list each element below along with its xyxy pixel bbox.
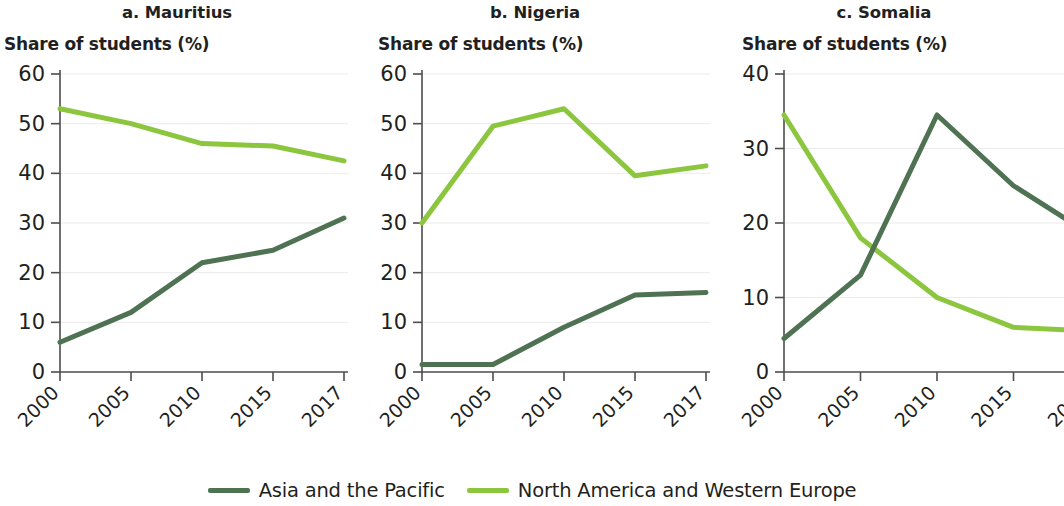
y-axis-tick-label: 50 <box>380 112 407 136</box>
x-axis-tick-label: 2000 <box>375 381 425 431</box>
x-axis-tick-label: 2017 <box>659 381 709 431</box>
y-axis-tick-label: 0 <box>394 360 407 384</box>
y-axis-label-nigeria: Share of students (%) <box>360 26 720 62</box>
y-axis-tick-label: 60 <box>380 62 407 86</box>
legend-label-north-america-western-europe: North America and Western Europe <box>518 479 857 502</box>
x-axis-tick-label: 2017 <box>297 381 347 431</box>
y-axis-tick-label: 10 <box>380 310 407 334</box>
x-axis-tick-label: 2000 <box>737 381 787 431</box>
y-axis-tick-label: 40 <box>742 62 769 86</box>
series-line-north-america-western-europe <box>422 109 706 223</box>
x-axis-tick-label: 2010 <box>517 381 567 431</box>
y-axis-tick-label: 10 <box>742 286 769 310</box>
plot-svg-mauritius: 010203040506020002005201020152017 <box>0 62 360 462</box>
plot-area-mauritius: 010203040506020002005201020152017 <box>0 62 360 462</box>
x-axis-tick-label: 2010 <box>890 381 940 431</box>
y-axis-tick-label: 0 <box>756 360 769 384</box>
y-axis-tick-label: 50 <box>18 112 45 136</box>
series-line-asia-pacific <box>422 293 706 365</box>
legend-item-north-america-western-europe: North America and Western Europe <box>467 479 857 502</box>
y-axis-tick-label: 10 <box>18 310 45 334</box>
chart-panels-row: a. Mauritius Share of students (%) 01020… <box>0 0 1064 470</box>
chart-panel-nigeria: b. Nigeria Share of students (%) 0102030… <box>360 0 720 470</box>
x-axis-tick-label: 2015 <box>967 381 1017 431</box>
x-axis-tick-label: 2005 <box>84 381 134 431</box>
legend-item-asia-pacific: Asia and the Pacific <box>208 479 445 502</box>
y-axis-label-somalia: Share of students (%) <box>720 26 1064 62</box>
y-axis-label-mauritius: Share of students (%) <box>0 26 360 62</box>
x-axis-tick-label: 2005 <box>446 381 496 431</box>
x-axis-tick-label: 2005 <box>814 381 864 431</box>
x-axis-tick-label: 2000 <box>13 381 63 431</box>
x-axis-tick-label: 2017 <box>1043 381 1064 431</box>
y-axis-tick-label: 30 <box>380 211 407 235</box>
chart-legend: Asia and the Pacific North America and W… <box>0 474 1064 506</box>
legend-label-asia-pacific: Asia and the Pacific <box>259 479 445 502</box>
y-axis-tick-label: 20 <box>742 211 769 235</box>
y-axis-tick-label: 40 <box>18 161 45 185</box>
y-axis-tick-label: 30 <box>742 137 769 161</box>
y-axis-tick-label: 40 <box>380 161 407 185</box>
chart-panel-somalia: c. Somalia Share of students (%) 0102030… <box>720 0 1064 470</box>
legend-swatch-north-america-western-europe <box>467 488 509 493</box>
panel-title-nigeria: b. Nigeria <box>360 0 720 26</box>
plot-svg-somalia: 01020304020002005201020152017 <box>720 62 1064 462</box>
plot-area-somalia: 01020304020002005201020152017 <box>720 62 1064 462</box>
panel-title-somalia: c. Somalia <box>720 0 1064 26</box>
legend-swatch-asia-pacific <box>208 488 250 493</box>
y-axis-tick-label: 20 <box>18 261 45 285</box>
chart-panel-mauritius: a. Mauritius Share of students (%) 01020… <box>0 0 360 470</box>
series-line-asia-pacific <box>60 218 344 342</box>
y-axis-tick-label: 60 <box>18 62 45 86</box>
panel-title-mauritius: a. Mauritius <box>0 0 360 26</box>
x-axis-tick-label: 2015 <box>588 381 638 431</box>
y-axis-tick-label: 0 <box>32 360 45 384</box>
series-line-north-america-western-europe <box>60 109 344 161</box>
x-axis-tick-label: 2015 <box>226 381 276 431</box>
x-axis-tick-label: 2010 <box>155 381 205 431</box>
y-axis-tick-label: 30 <box>18 211 45 235</box>
multi-panel-line-chart-figure: a. Mauritius Share of students (%) 01020… <box>0 0 1064 506</box>
plot-area-nigeria: 010203040506020002005201020152017 <box>360 62 720 462</box>
plot-svg-nigeria: 010203040506020002005201020152017 <box>360 62 720 462</box>
y-axis-tick-label: 20 <box>380 261 407 285</box>
